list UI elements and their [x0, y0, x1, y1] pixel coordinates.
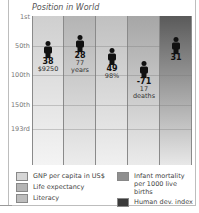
y-tick-150th: 150th	[2, 101, 30, 109]
marker-infant-mortality: -71 17 deaths	[128, 61, 160, 100]
chart-title: Position in World	[32, 3, 99, 12]
y-tick-1st: 1st	[2, 13, 30, 21]
gridline-193rd	[32, 129, 192, 130]
person-icon	[75, 35, 85, 52]
legend-item-gnp: GNP per capita in US$	[16, 172, 105, 181]
column-literacy	[96, 16, 128, 165]
legend-swatch	[16, 172, 28, 181]
legend-label: Human dev. index	[134, 198, 193, 206]
y-tick-50th: 50th	[2, 42, 30, 50]
column-gnp	[32, 16, 64, 165]
legend-swatch	[16, 183, 28, 192]
legend-swatch	[117, 198, 129, 207]
legend-item-life-expectancy: Life expectancy	[16, 183, 105, 192]
y-tick-100th: 100th	[2, 71, 30, 79]
marker-life-expectancy: 28 77 years	[64, 35, 96, 74]
legend-item-human-dev-index: Human dev. index	[117, 198, 193, 207]
legend-item-infant-mortality: Infant mortality per 1000 live births	[117, 172, 193, 196]
legend-label: GNP per capita in US$	[33, 172, 105, 180]
marker-gnp: 38 $9250	[32, 41, 64, 73]
marker-human-dev-index: 31	[160, 37, 192, 62]
legend-right: Infant mortality per 1000 live births Hu…	[117, 172, 193, 209]
detail-unit: years	[64, 67, 96, 74]
person-icon	[171, 37, 181, 54]
legend-label: Infant mortality per 1000 live births	[134, 172, 193, 196]
y-tick-193rd: 193rd	[2, 125, 30, 133]
legend-item-literacy: Literacy	[16, 194, 105, 203]
legend-label: Literacy	[33, 194, 59, 202]
rank-value: 31	[160, 54, 192, 62]
legend-label: Life expectancy	[33, 183, 84, 191]
legend-swatch	[16, 194, 28, 203]
detail-value: $9250	[32, 66, 64, 73]
legend-left: GNP per capita in US$ Life expectancy Li…	[16, 172, 105, 205]
gridline-150th	[32, 105, 192, 106]
plot-area: 38 $9250 28 77 years 49 98% -71 17 death…	[32, 16, 192, 165]
person-icon	[43, 41, 53, 58]
divider	[0, 205, 12, 206]
detail-value: 98%	[96, 73, 128, 80]
detail-unit: deaths	[128, 93, 160, 100]
legend-swatch	[117, 172, 129, 181]
marker-literacy: 49 98%	[96, 48, 128, 80]
person-icon	[107, 48, 117, 65]
person-icon	[139, 61, 149, 78]
